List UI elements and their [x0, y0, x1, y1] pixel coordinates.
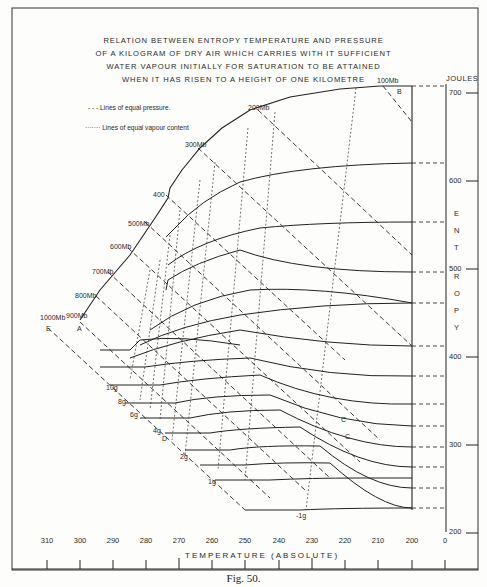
x-tick-220: 220: [339, 536, 352, 545]
y-label-letter: T: [454, 243, 459, 252]
pressure-label-700: 700Mb: [92, 268, 113, 275]
x-tick-230: 230: [306, 536, 319, 545]
isobar-lines: [48, 86, 412, 510]
x-tick-200: 200: [406, 536, 419, 545]
x-tick-240: 240: [273, 536, 286, 545]
pressure-label-100: 100Mb: [377, 77, 398, 84]
y-units-label: JOULES: [446, 74, 478, 83]
vapour-label-2g: 2g: [180, 453, 188, 460]
x-axis-label: TEMPERATURE (ABSOLUTE): [185, 551, 339, 560]
legend-pressure: - - - Lines of equal pressure.: [88, 104, 170, 111]
y-label-letter: O: [454, 289, 460, 298]
pressure-label-1000: 1000Mb: [40, 314, 65, 321]
legend-vapour: ······· Lines of equal vapour content: [85, 124, 189, 131]
y-tick-400: 400: [449, 352, 462, 361]
legend-vapour-label: Lines of equal vapour content: [102, 124, 189, 131]
vapour-label-10g: 10g: [106, 384, 118, 391]
y-label-letter: P: [454, 306, 459, 315]
chart-title-line-3: WATER VAPOUR INITIALLY FOR SATURATION TO…: [0, 62, 487, 71]
pressure-label-400: 400: [153, 191, 165, 198]
vapour-content-lines: [130, 88, 356, 510]
x-tick-0: 0: [443, 536, 447, 545]
pressure-label-200: 200Mb: [248, 104, 269, 111]
vapour-label-6g: 6g: [130, 411, 138, 418]
entropy-extension-lines: [412, 86, 446, 508]
adiabat-curves: [100, 163, 412, 510]
pressure-label-500: 500Mb: [128, 220, 149, 227]
point-label-d: D: [162, 435, 167, 442]
entropy-temperature-diagram: [0, 0, 487, 587]
y-label-letter: R: [454, 272, 459, 281]
figure-caption: Fig. 50.: [0, 572, 487, 584]
point-label-c-upper: C: [341, 416, 346, 423]
x-tick-300: 300: [74, 536, 87, 545]
x-tick-250: 250: [239, 536, 252, 545]
chart-title-line-2: OF A KILOGRAM OF DRY AIR WHICH CARRIES W…: [0, 49, 487, 58]
vapour-label-8g: 8g: [118, 398, 126, 405]
legend-pressure-label: Lines of equal pressure.: [100, 104, 170, 111]
point-label-e: E: [46, 325, 51, 332]
point-label-a: A: [77, 325, 82, 332]
pressure-label-900: 900Mb: [66, 312, 87, 319]
y-tick-600: 600: [449, 176, 462, 185]
y-label-letter: E: [454, 209, 459, 218]
chart-title-line-1: RELATION BETWEEN ENTROPY TEMPERATURE AND…: [0, 36, 487, 45]
legend-dot-icon: ·······: [85, 124, 102, 131]
y-label-letter: N: [454, 226, 459, 235]
x-tick-280: 280: [140, 536, 153, 545]
chart-title-line-4: WHEN IT HAS RISEN TO A HEIGHT OF ONE KIL…: [0, 75, 487, 84]
figure-frame: [12, 8, 478, 570]
y-tick-700: 700: [449, 88, 462, 97]
y-label-letter: Y: [454, 323, 459, 332]
vapour-label-minus1g: -1g: [296, 512, 306, 519]
saturation-envelope: [80, 86, 412, 320]
pressure-label-600: 600Mb: [110, 243, 131, 250]
y-tick-300: 300: [449, 440, 462, 449]
pressure-label-300: 300Mb: [185, 141, 206, 148]
entropy-axis: [446, 84, 478, 533]
point-label-c-lower: C: [345, 433, 350, 440]
legend-dash-icon: - - -: [88, 104, 100, 111]
pressure-label-800: 800Mb: [75, 292, 96, 299]
point-label-b: B: [397, 88, 402, 95]
x-tick-210: 210: [372, 536, 385, 545]
x-tick-270: 270: [173, 536, 186, 545]
y-tick-200: 200: [449, 527, 462, 536]
vapour-label-1g: 1g: [208, 478, 216, 485]
x-tick-260: 260: [206, 536, 219, 545]
vapour-label-4g: 4g: [153, 427, 161, 434]
x-tick-310: 310: [41, 536, 54, 545]
x-tick-290: 290: [107, 536, 120, 545]
